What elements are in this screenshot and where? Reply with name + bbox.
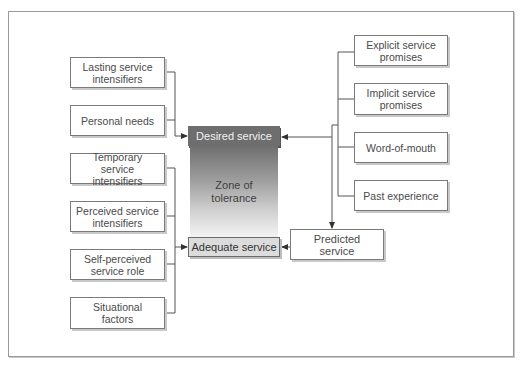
adequate-service-box: Adequate service bbox=[188, 237, 280, 257]
factor-self-perceived-service-role: Self-perceivedservice role bbox=[70, 249, 165, 280]
factor-personal-needs: Personal needs bbox=[70, 105, 165, 136]
factor-implicit-service-promises: Implicit servicepromises bbox=[354, 83, 448, 115]
adequate-service-label: Adequate service bbox=[192, 241, 277, 253]
factor-label-line2: promises bbox=[380, 99, 423, 111]
zone-of-tolerance: Zone oftolerance bbox=[190, 146, 278, 237]
factor-word-of-mouth: Word-of-mouth bbox=[354, 132, 448, 163]
factor-label-line1: Situational bbox=[93, 301, 142, 313]
factor-situational-factors: Situationalfactors bbox=[70, 297, 165, 329]
factor-past-experience: Past experience bbox=[354, 180, 448, 211]
factor-lasting-service-intensifiers: Lasting serviceintensifiers bbox=[70, 57, 165, 88]
factor-label: Word-of-mouth bbox=[366, 142, 436, 154]
desired-service-box: Desired service bbox=[188, 126, 280, 146]
factor-temporary-service-intensifiers: Temporary serviceintensifiers bbox=[70, 153, 165, 184]
desired-service-label: Desired service bbox=[196, 130, 272, 142]
factor-label-line2: service role bbox=[91, 265, 145, 277]
factor-label-line1: Perceived service bbox=[76, 205, 159, 217]
factor-label-line2: intensifiers bbox=[92, 175, 142, 187]
factor-perceived-service-intensifiers: Perceived serviceintensifiers bbox=[70, 201, 165, 232]
factor-label-line1: Implicit service bbox=[367, 87, 436, 99]
factor-label: Personal needs bbox=[81, 115, 154, 127]
factor-label-line2: promises bbox=[380, 51, 423, 63]
predicted-label-line2: service bbox=[320, 245, 355, 257]
factor-label-line1: Self-perceived bbox=[84, 253, 151, 265]
factor-label-line1: Temporary service bbox=[93, 151, 143, 175]
zone-label-line2: tolerance bbox=[211, 192, 256, 204]
predicted-service-box: Predictedservice bbox=[290, 229, 384, 260]
factor-label: Past experience bbox=[363, 190, 438, 202]
factor-label-line2: intensifiers bbox=[92, 217, 142, 229]
predicted-label-line1: Predicted bbox=[314, 233, 360, 245]
factor-label-line2: factors bbox=[102, 313, 134, 325]
factor-explicit-service-promises: Explicit servicepromises bbox=[354, 35, 448, 66]
factor-label-line1: Lasting service bbox=[82, 61, 152, 73]
factor-label-line2: intensifiers bbox=[92, 73, 142, 85]
zone-label-line1: Zone of bbox=[215, 179, 252, 191]
factor-label-line1: Explicit service bbox=[366, 39, 435, 51]
